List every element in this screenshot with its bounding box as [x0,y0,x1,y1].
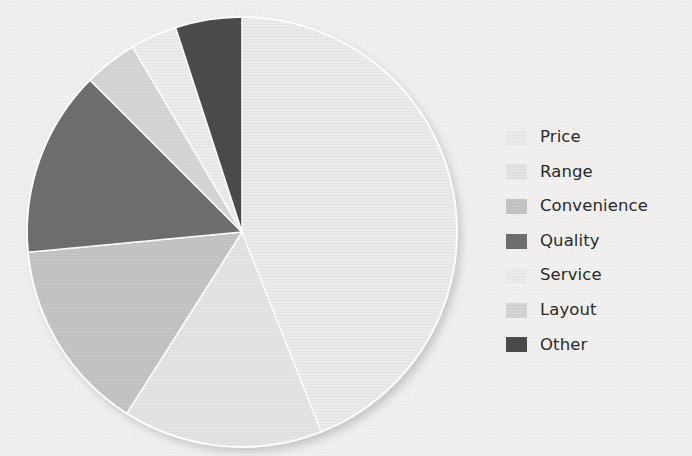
legend-item-price[interactable]: Price [506,120,681,155]
legend-swatch-icon [506,234,527,249]
chart-legend: PriceRangeConvenienceQualityServiceLayou… [506,120,681,362]
legend-item-other[interactable]: Other [506,328,681,363]
legend-item-label: Layout [540,302,597,319]
legend-swatch-icon [506,303,527,318]
page-root: Price: 44%Range: 15%Convenience: 14.5%Qu… [0,0,692,456]
legend-item-label: Range [540,164,593,181]
legend-item-range[interactable]: Range [506,155,681,190]
pie-texture-overlay [27,17,457,447]
pie-chart-figure: Price: 44%Range: 15%Convenience: 14.5%Qu… [0,0,692,456]
legend-swatch-icon [506,268,527,283]
legend-swatch-icon [506,164,527,179]
legend-item-layout[interactable]: Layout [506,293,681,328]
legend-item-quality[interactable]: Quality [506,224,681,259]
legend-item-label: Convenience [540,198,648,215]
legend-item-label: Other [540,337,587,354]
legend-swatch-icon [506,199,527,214]
legend-item-label: Price [540,129,581,146]
legend-item-convenience[interactable]: Convenience [506,189,681,224]
legend-item-label: Service [540,267,602,284]
legend-item-service[interactable]: Service [506,258,681,293]
legend-item-label: Quality [540,233,600,250]
legend-swatch-icon [506,337,527,352]
legend-swatch-icon [506,130,527,145]
